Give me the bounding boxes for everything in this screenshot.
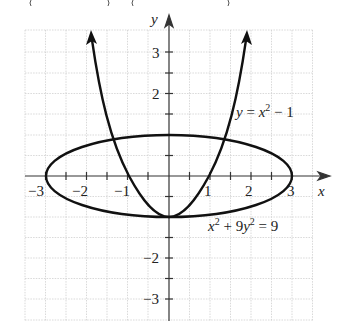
graph: y x −3 −2 −1 1 2 3 3 2 −2 −3 y = x2 − 1 …: [0, 0, 340, 335]
ellipse-equation-label: x2 + 9y2 = 9: [207, 216, 278, 234]
y-axis-label: y: [149, 11, 158, 27]
y-tick-label: −2: [143, 250, 159, 266]
y-tick-label: 3: [152, 45, 160, 61]
x-tick-label: −2: [72, 183, 88, 199]
x-tick-label: −1: [114, 183, 130, 199]
cut-off-header-fragment: [30, 0, 229, 6]
parabola-equation-label: y = x2 − 1: [234, 102, 294, 120]
x-tick-label: −3: [28, 183, 44, 199]
y-tick-label: 2: [152, 86, 160, 102]
x-axis-label: x: [317, 183, 325, 199]
x-tick-label: 2: [245, 183, 253, 199]
x-tick-label: 1: [204, 183, 212, 199]
axes: [25, 15, 330, 321]
x-tick-label: 3: [287, 183, 295, 199]
y-tick-label: −3: [143, 291, 159, 307]
